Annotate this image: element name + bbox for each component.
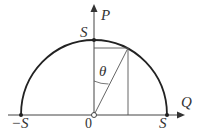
top-s-label: S	[80, 24, 88, 40]
right-s-label: S	[159, 115, 167, 131]
left-s-label: −S	[11, 115, 29, 131]
origin-point	[92, 113, 97, 118]
origin-label: 0	[85, 116, 92, 131]
q-axis-arrow-icon	[177, 112, 185, 119]
top-point	[92, 38, 96, 42]
p-axis-arrow-icon	[91, 4, 98, 12]
power-circle-diagram: P Q S −S S 0 θ	[0, 0, 201, 132]
radius-vector	[94, 48, 128, 115]
q-axis-label: Q	[181, 94, 192, 110]
p-axis-label: P	[100, 7, 110, 23]
theta-label: θ	[99, 63, 107, 79]
theta-angle-arc	[94, 81, 109, 84]
